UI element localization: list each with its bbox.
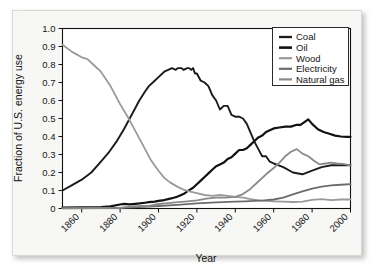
chart-figure: 00.10.20.30.40.50.60.70.80.91.0 18601880…: [0, 0, 378, 275]
chart-svg: 00.10.20.30.40.50.60.70.80.91.0 18601880…: [0, 0, 378, 275]
x-tick-label: 2000: [327, 211, 350, 234]
x-tick-label: 1860: [58, 211, 81, 234]
y-tick-label: 0: [50, 203, 55, 214]
y-tick-label: 0.6: [42, 95, 55, 106]
legend-label-oil: Oil: [296, 42, 308, 53]
legend-label-electricity: Electricity: [296, 63, 337, 74]
legend-label-natural-gas: Natural gas: [296, 74, 345, 85]
y-tick-label: 0.9: [42, 41, 55, 52]
legend-label-coal: Coal: [296, 31, 316, 42]
y-tick-label: 0.4: [42, 131, 55, 142]
legend-label-wood: Wood: [296, 53, 321, 64]
y-tick-label: 0.1: [42, 185, 55, 196]
chart-screenshot: 00.10.20.30.40.50.60.70.80.91.0 18601880…: [0, 0, 378, 275]
x-tick-label: 1980: [289, 211, 312, 234]
y-tick-label: 0.2: [42, 167, 55, 178]
y-tick-label: 0.8: [42, 59, 55, 70]
x-axis-ticks: [82, 209, 351, 213]
x-tick-label: 1900: [135, 211, 158, 234]
y-axis-title: Fraction of U.S. energy use: [12, 54, 24, 182]
y-axis-ticks: [59, 29, 63, 209]
y-tick-label: 0.7: [42, 77, 55, 88]
x-tick-label: 1920: [174, 211, 197, 234]
y-axis-tick-labels: 00.10.20.30.40.50.60.70.80.91.0: [42, 23, 55, 214]
x-axis-title: Year: [195, 252, 217, 264]
x-axis-tick-labels: 18601880190019201940196019802000: [58, 211, 350, 234]
y-tick-label: 1.0: [42, 23, 55, 34]
y-tick-label: 0.3: [42, 149, 55, 160]
x-tick-label: 1960: [250, 211, 273, 234]
x-tick-label: 1880: [97, 211, 120, 234]
x-tick-label: 1940: [212, 211, 235, 234]
y-tick-label: 0.5: [42, 113, 55, 124]
